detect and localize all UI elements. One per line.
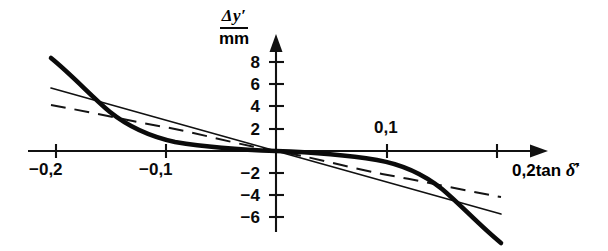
y-tick-label-2: 2 xyxy=(232,121,260,138)
chart-figure: Δy′ mm 8 6 4 2 −2 −4 −6 −0,2 −0,1 0,1 0,… xyxy=(0,0,608,251)
y-tick-label-8: 8 xyxy=(232,54,260,71)
x-axis-delta-symbol: δ̂′ xyxy=(566,160,580,180)
y-axis-label-numerator: Δy′ xyxy=(220,6,249,29)
y-tick-label--4: −4 xyxy=(222,187,260,204)
y-tick-label-6: 6 xyxy=(232,76,260,93)
x-axis-label: 0,2tan δ̂′ xyxy=(512,160,580,181)
x-tick-label--0.1: −0,1 xyxy=(139,161,173,178)
y-tick-label-4: 4 xyxy=(232,98,260,115)
x-axis-arrowhead xyxy=(530,145,548,158)
y-axis-group xyxy=(269,34,284,232)
x-tick-label-0.1: 0,1 xyxy=(374,119,398,136)
y-tick-label--2: −2 xyxy=(222,165,260,182)
x-tick-label--0.2: −0,2 xyxy=(29,161,63,178)
x-tick-label-0.2: 0,2 xyxy=(512,161,536,180)
y-axis-label-denominator: mm xyxy=(203,30,265,49)
chart-plot-area xyxy=(0,0,608,251)
y-tick-label--6: −6 xyxy=(222,209,260,226)
y-axis-arrowhead xyxy=(270,34,283,52)
y-axis-label: Δy′ mm xyxy=(203,6,265,48)
x-axis-tan-word: tan xyxy=(536,161,566,180)
